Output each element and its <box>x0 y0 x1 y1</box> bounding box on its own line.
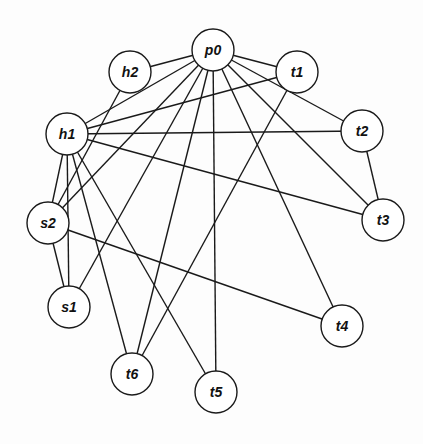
edge-h1-t2 <box>67 131 362 134</box>
node-h2: h2 <box>109 51 151 93</box>
node-label: s2 <box>40 215 56 231</box>
node-label: t6 <box>126 366 139 382</box>
node-s2: s2 <box>27 202 69 244</box>
node-label: t1 <box>291 64 304 80</box>
node-t5: t5 <box>195 371 237 413</box>
node-p0: p0 <box>192 29 234 71</box>
graph-diagram: p0t1h2h1t2s2t3s1t4t6t5 <box>0 0 423 444</box>
edge-t1-t6 <box>132 72 297 374</box>
node-label: t4 <box>336 318 349 334</box>
graph-svg: p0t1h2h1t2s2t3s1t4t6t5 <box>0 0 423 444</box>
edge-h1-t3 <box>67 134 383 220</box>
node-label: s1 <box>61 299 77 315</box>
node-label: p0 <box>204 42 222 58</box>
node-label: h2 <box>122 64 139 80</box>
node-t2: t2 <box>341 110 383 152</box>
node-label: t3 <box>377 212 390 228</box>
node-label: t2 <box>356 123 369 139</box>
node-label: h1 <box>59 126 76 142</box>
node-t1: t1 <box>276 51 318 93</box>
node-h1: h1 <box>46 113 88 155</box>
node-s1: s1 <box>48 286 90 328</box>
node-t6: t6 <box>111 353 153 395</box>
edge-s2-t4 <box>48 223 342 326</box>
node-t4: t4 <box>321 305 363 347</box>
edge-p0-t4 <box>213 50 342 326</box>
node-label: t5 <box>210 384 223 400</box>
node-t3: t3 <box>362 199 404 241</box>
edge-h1-t5 <box>67 134 216 392</box>
